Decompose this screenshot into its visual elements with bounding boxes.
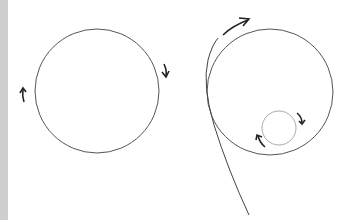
large-circle <box>207 29 333 155</box>
arrow-down-icon <box>162 64 169 77</box>
left-figure <box>20 29 169 153</box>
small-circle <box>262 111 296 145</box>
right-figure <box>206 18 333 215</box>
trajectory-curve <box>206 38 249 215</box>
left-circle <box>35 29 159 153</box>
arrow-down-icon <box>297 113 305 124</box>
rotation-diagram <box>0 0 359 220</box>
arrow-up-icon <box>256 135 265 147</box>
arrow-up-icon <box>20 88 26 102</box>
arrow-up-right-icon <box>223 18 249 35</box>
